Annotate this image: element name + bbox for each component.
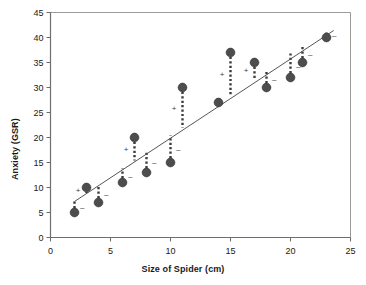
data-point (94, 198, 103, 207)
y-tick-label: 20 (33, 133, 43, 143)
regression-line (75, 31, 334, 202)
x-axis-title: Size of Spider (cm) (0, 264, 366, 274)
residual-sign: – (152, 158, 157, 167)
data-point (130, 133, 139, 142)
data-point (166, 158, 175, 167)
data-point (142, 168, 151, 177)
data-point (286, 73, 295, 82)
residual-sign: – (332, 31, 337, 40)
residual-sign: – (104, 190, 109, 199)
x-tick-label: 25 (345, 246, 355, 256)
data-point (250, 58, 259, 67)
data-point (70, 208, 79, 217)
x-tick-label: 10 (165, 246, 175, 256)
y-axis-title: Anxiety (GSR) (10, 118, 20, 180)
data-point (178, 83, 187, 92)
y-tick-label: 30 (33, 83, 43, 93)
data-point (118, 178, 127, 187)
residual-sign: – (80, 203, 85, 212)
residual-lines (75, 33, 327, 213)
x-tick-label: 0 (48, 246, 53, 256)
residual-sign-labels: –+––+––+++–––– (76, 31, 337, 212)
residual-sign: + (124, 145, 129, 154)
x-axis-ticks: 0510152025 (48, 238, 356, 256)
y-tick-label: 15 (33, 158, 43, 168)
y-tick-label: 40 (33, 33, 43, 43)
scatter-chart-figure: 0510152025 051015202530354045 –+––+––+++… (0, 0, 366, 285)
x-tick-label: 5 (108, 246, 113, 256)
data-point-markers (70, 33, 331, 217)
residual-sign: – (128, 172, 133, 181)
y-tick-label: 5 (38, 208, 43, 218)
residual-sign: – (272, 75, 277, 84)
data-point (298, 58, 307, 67)
data-point (262, 83, 271, 92)
residual-sign: – (176, 145, 181, 154)
data-point (226, 48, 235, 57)
y-tick-label: 25 (33, 108, 43, 118)
residual-sign: – (308, 50, 313, 59)
residual-sign: + (76, 186, 81, 195)
plot-canvas: 0510152025 051015202530354045 –+––+––+++… (0, 0, 366, 285)
x-tick-label: 20 (285, 246, 295, 256)
residual-sign: + (172, 104, 177, 113)
regression-line-segment (75, 31, 334, 202)
data-point (322, 33, 331, 42)
y-tick-label: 10 (33, 183, 43, 193)
residual-sign: + (244, 66, 249, 75)
y-tick-label: 45 (33, 8, 43, 18)
data-point (214, 98, 223, 107)
y-tick-label: 0 (38, 233, 43, 243)
data-point (82, 183, 91, 192)
residual-sign: + (220, 70, 225, 79)
y-tick-label: 35 (33, 58, 43, 68)
x-tick-label: 15 (225, 246, 235, 256)
y-axis-ticks: 051015202530354045 (33, 8, 50, 243)
